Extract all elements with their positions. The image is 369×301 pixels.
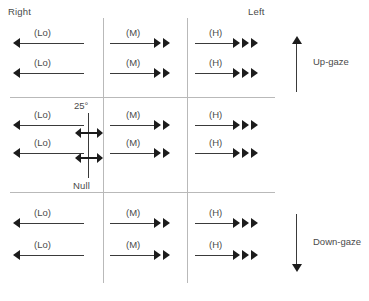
arrow-head-right-icon bbox=[154, 68, 161, 78]
arrow-shaft bbox=[110, 255, 158, 256]
header-label-right: Right bbox=[8, 6, 31, 17]
arrow-shaft bbox=[110, 125, 158, 126]
arrow-head-right-icon bbox=[97, 128, 103, 138]
arrow-label: (Lo) bbox=[34, 137, 51, 148]
arrow-group-r3c2-b: (M) bbox=[110, 240, 178, 262]
arrow-shaft bbox=[195, 223, 237, 224]
arrow-head-left-icon bbox=[13, 148, 20, 158]
arrow-shaft bbox=[20, 153, 84, 154]
grid-vline-2 bbox=[187, 18, 188, 283]
arrow-head-right-icon bbox=[242, 68, 249, 78]
arrow-head-right-icon bbox=[251, 120, 258, 130]
arrow-shaft bbox=[20, 73, 84, 74]
arrow-label: (H) bbox=[209, 207, 222, 218]
arrow-head-right-icon bbox=[154, 38, 161, 48]
arrow-head-right-icon bbox=[163, 148, 170, 158]
arrow-head-right-icon bbox=[163, 68, 170, 78]
null-zone-label: Null bbox=[73, 180, 90, 191]
arrow-group-r3c3-a: (H) bbox=[195, 208, 270, 230]
arrow-group-r1c1-b: (Lo) bbox=[12, 58, 84, 80]
arrow-shaft bbox=[110, 153, 158, 154]
up-gaze-label: Up-gaze bbox=[313, 56, 349, 67]
arrow-head-right-icon bbox=[242, 148, 249, 158]
arrow-shaft bbox=[20, 43, 84, 44]
arrow-label: (Lo) bbox=[34, 207, 51, 218]
arrow-head-right-icon bbox=[233, 148, 240, 158]
arrow-group-r3c2-a: (M) bbox=[110, 208, 178, 230]
arrow-label: (M) bbox=[126, 57, 140, 68]
arrow-label: (M) bbox=[126, 239, 140, 250]
arrow-head-right-icon bbox=[233, 250, 240, 260]
arrow-head-right-icon bbox=[154, 250, 161, 260]
arrow-head-right-icon bbox=[242, 218, 249, 228]
arrow-head-left-icon bbox=[13, 250, 20, 260]
arrow-head-left-icon bbox=[13, 68, 20, 78]
arrow-label: (M) bbox=[126, 109, 140, 120]
arrow-shaft bbox=[195, 125, 237, 126]
arrow-head-right-icon bbox=[242, 38, 249, 48]
arrow-label: (H) bbox=[209, 109, 222, 120]
arrow-head-right-icon bbox=[233, 68, 240, 78]
arrow-head-right-icon bbox=[154, 148, 161, 158]
arrow-label: (Lo) bbox=[34, 109, 51, 120]
arrow-label: (M) bbox=[126, 137, 140, 148]
arrow-shaft bbox=[110, 73, 158, 74]
arrow-label: (Lo) bbox=[34, 27, 51, 38]
arrow-label: (H) bbox=[209, 57, 222, 68]
arrow-label: (H) bbox=[209, 27, 222, 38]
arrow-head-right-icon bbox=[154, 120, 161, 130]
arrow-label: (M) bbox=[126, 207, 140, 218]
arrow-head-right-icon bbox=[251, 68, 258, 78]
arrow-head-right-icon bbox=[163, 38, 170, 48]
arrow-label: (Lo) bbox=[34, 239, 51, 250]
arrow-shaft bbox=[20, 255, 84, 256]
arrow-head-right-icon bbox=[251, 38, 258, 48]
arrow-group-r1c1-a: (Lo) bbox=[12, 28, 84, 50]
grid-hline-1 bbox=[10, 97, 275, 98]
arrow-head-right-icon bbox=[251, 218, 258, 228]
arrow-group-r2c2-b: (M) bbox=[110, 138, 178, 160]
arrow-group-r3c1-b: (Lo) bbox=[12, 240, 84, 262]
arrow-head-right-icon bbox=[154, 218, 161, 228]
arrow-label: (H) bbox=[209, 239, 222, 250]
arrow-shaft bbox=[20, 125, 84, 126]
arrow-label: (Lo) bbox=[34, 57, 51, 68]
arrow-head-right-icon bbox=[242, 250, 249, 260]
arrow-shaft bbox=[79, 132, 99, 134]
arrow-shaft bbox=[195, 153, 237, 154]
arrow-shaft bbox=[110, 223, 158, 224]
arrow-group-r1c3-b: (H) bbox=[195, 58, 270, 80]
gaze-arrow-shaft bbox=[296, 40, 297, 92]
arrow-shaft bbox=[20, 223, 84, 224]
arrow-group-r1c3-a: (H) bbox=[195, 28, 270, 50]
arrow-head-left-icon bbox=[13, 218, 20, 228]
arrow-label: (M) bbox=[126, 27, 140, 38]
arrow-head-right-icon bbox=[242, 120, 249, 130]
arrow-group-r3c3-b: (H) bbox=[195, 240, 270, 262]
arrow-head-left-icon bbox=[13, 120, 20, 130]
arrow-head-up-icon bbox=[292, 36, 302, 44]
arrow-label: (H) bbox=[209, 137, 222, 148]
arrow-group-r2c1-b: (Lo) bbox=[12, 138, 84, 160]
arrow-head-right-icon bbox=[233, 38, 240, 48]
arrow-head-down-icon bbox=[292, 264, 302, 272]
arrow-group-r2c3-b: (H) bbox=[195, 138, 270, 160]
arrow-shaft bbox=[195, 255, 237, 256]
arrow-group-r2c1-a: (Lo) bbox=[12, 110, 84, 132]
arrow-head-left-icon bbox=[13, 38, 20, 48]
arrow-shaft bbox=[195, 43, 237, 44]
arrow-shaft bbox=[110, 43, 158, 44]
gaze-arrow-shaft bbox=[296, 214, 297, 266]
arrow-group-r1c2-a: (M) bbox=[110, 28, 178, 50]
arrow-head-right-icon bbox=[233, 218, 240, 228]
arrow-head-right-icon bbox=[97, 153, 103, 163]
arrow-group-r1c2-b: (M) bbox=[110, 58, 178, 80]
down-gaze-arrow bbox=[292, 214, 302, 272]
up-gaze-arrow bbox=[292, 36, 302, 92]
null-zone-vertical-line bbox=[88, 113, 89, 178]
arrow-head-right-icon bbox=[163, 218, 170, 228]
arrow-head-right-icon bbox=[163, 120, 170, 130]
arrow-head-right-icon bbox=[251, 148, 258, 158]
arrow-head-right-icon bbox=[251, 250, 258, 260]
arrow-group-r2c3-a: (H) bbox=[195, 110, 270, 132]
